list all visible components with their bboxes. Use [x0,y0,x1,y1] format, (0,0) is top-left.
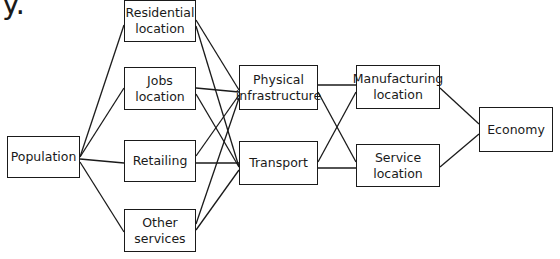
edge-other-transport [196,170,239,230]
node-service-location: Service location [356,144,440,187]
node-transport: Transport [239,141,318,185]
edge-service-economy [440,134,479,167]
node-population: Population [7,136,80,178]
node-other-services: Other services [124,209,196,252]
node-economy: Economy [479,107,553,152]
edge-population-jobs [80,88,124,157]
edge-other-physical [196,98,239,224]
edge-residential-physical [196,20,239,90]
node-jobs-location: Jobs location [124,67,196,110]
node-retailing: Retailing [124,140,196,182]
node-residential-location: Residential location [124,0,196,42]
node-manufacturing-location: Manufacturing location [356,65,440,109]
edge-jobs-physical [196,88,239,92]
edge-population-other [80,162,124,232]
edge-layer [0,0,560,259]
node-physical-infrastructure: Physical infrastructure [239,65,318,110]
edge-manufacturing-economy [440,88,479,124]
edge-population-residential [80,25,124,157]
edge-population-retailing [80,159,124,163]
